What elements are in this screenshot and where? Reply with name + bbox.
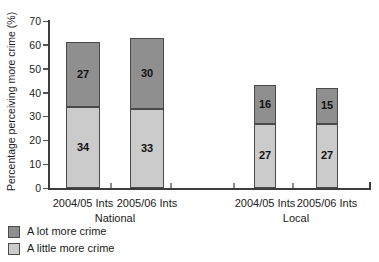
legend-label: A little more crime [27, 242, 114, 255]
y-tick-label: 60 [18, 39, 41, 51]
legend-item: A little more crime [8, 240, 114, 257]
legend-item: A lot more crime [8, 223, 114, 240]
y-tick-label: 20 [18, 134, 41, 146]
bar-value-label: 15 [316, 99, 338, 112]
y-tick-label: 50 [18, 63, 41, 75]
crime-perception-stacked-bar-chart: 01020304050607034272004/05 Ints33302005/… [0, 0, 379, 262]
legend-label: A lot more crime [27, 225, 106, 238]
y-tick-mark [43, 188, 48, 190]
bar-value-label: 27 [66, 68, 100, 81]
x-category-label: 2005/06 Ints [105, 197, 189, 210]
bar-value-label: 33 [130, 142, 164, 155]
bar-value-label: 34 [66, 141, 100, 154]
legend-swatch [8, 243, 20, 255]
y-tick-label: 10 [18, 158, 41, 170]
y-tick-mark [43, 164, 48, 166]
y-tick-mark [43, 21, 48, 23]
y-tick-label: 30 [18, 110, 41, 122]
bar-value-label: 27 [316, 149, 338, 162]
y-tick-mark [43, 68, 48, 70]
y-axis-title: Percentage perceiving more crime (%) [4, 15, 18, 191]
bar-value-label: 30 [130, 67, 164, 80]
x-tick-mark [233, 183, 235, 188]
y-tick-label: 40 [18, 87, 41, 99]
x-tick-mark [110, 183, 112, 188]
y-tick-mark [43, 116, 48, 118]
y-tick-label: 70 [18, 15, 41, 27]
y-tick-mark [43, 44, 48, 46]
legend-swatch [8, 226, 20, 238]
x-tick-mark [292, 183, 294, 188]
x-tick-mark [170, 183, 172, 188]
x-axis-end-tick [369, 182, 371, 188]
y-tick-mark [43, 92, 48, 94]
y-tick-label: 0 [18, 182, 41, 194]
x-axis-line [48, 188, 371, 190]
y-tick-mark [43, 140, 48, 142]
legend: A lot more crimeA little more crime [8, 223, 114, 257]
bar-value-label: 16 [254, 98, 276, 111]
x-group-label: Local [254, 212, 338, 225]
x-category-label: 2005/06 Ints [285, 197, 369, 210]
y-axis-line [48, 20, 50, 190]
bar-value-label: 27 [254, 149, 276, 162]
